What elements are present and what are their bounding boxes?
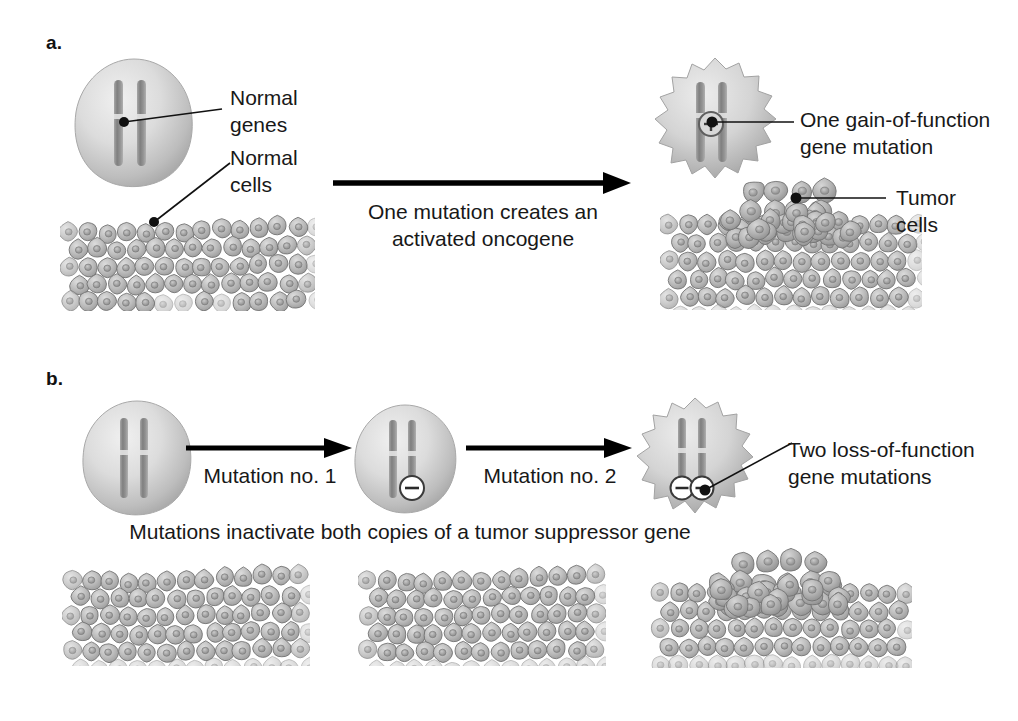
label-tumor-cells-l2: cells	[896, 213, 938, 236]
label-normal-cells-l1: Normal	[230, 146, 298, 169]
circled-minus-icon	[400, 476, 424, 500]
label-gain-of-function-l2: gene mutation	[800, 135, 933, 158]
leader-normal-genes	[118, 108, 228, 138]
panel-b-arrow-1-caption: Mutation no. 1	[180, 462, 360, 489]
label-normal-genes-l2: genes	[230, 113, 287, 136]
panel-a-letter: a.	[46, 32, 62, 54]
panel-b-letter: b.	[46, 368, 63, 390]
label-tumor-cells: Tumorcells	[896, 184, 956, 238]
label-gain-of-function: One gain-of-functiongene mutation	[800, 106, 990, 160]
chromosome-left	[389, 420, 397, 498]
figure-canvas: a. Normalgenes Normalcells	[0, 0, 1018, 721]
label-loss-of-function-l2: gene mutations	[788, 465, 932, 488]
label-normal-cells-l2: cells	[230, 173, 272, 196]
label-tumor-cells-l1: Tumor	[896, 186, 956, 209]
chromosome-right	[140, 418, 148, 498]
panel-b-normal-nucleus	[78, 398, 196, 518]
tissue-svg	[60, 211, 315, 311]
panel-a-arrow-caption-l2: activated oncogene	[392, 227, 574, 250]
label-normal-genes: Normalgenes	[230, 84, 298, 138]
leader-gain-of-function	[706, 112, 798, 132]
panel-a-arrow	[333, 172, 633, 194]
label-loss-of-function-l1: Two loss-of-function	[788, 438, 975, 461]
panel-b-arrow-1	[186, 438, 354, 458]
label-loss-of-function: Two loss-of-functiongene mutations	[788, 436, 975, 490]
leader-tumor-cells	[790, 188, 890, 208]
panel-a-normal-tissue	[60, 211, 315, 311]
panel-a-arrow-caption: One mutation creates anactivated oncogen…	[333, 198, 633, 252]
panel-b-tumor-tissue	[650, 548, 912, 668]
leader-loss-of-function	[700, 440, 798, 496]
panel-b-caption: Mutations inactivate both copies of a tu…	[40, 518, 780, 545]
label-normal-genes-l1: Normal	[230, 86, 298, 109]
panel-b-normal-tissue-2	[358, 560, 606, 666]
label-gain-of-function-l1: One gain-of-function	[800, 108, 990, 131]
panel-b-arrow-2	[466, 438, 634, 458]
chromosome-left	[120, 418, 128, 498]
panel-b-one-hit-nucleus	[350, 402, 460, 516]
panel-a-arrow-caption-l1: One mutation creates an	[368, 200, 598, 223]
label-normal-cells: Normalcells	[230, 144, 298, 198]
panel-b-normal-tissue-1	[62, 560, 310, 666]
panel-b-arrow-2-caption: Mutation no. 2	[460, 462, 640, 489]
